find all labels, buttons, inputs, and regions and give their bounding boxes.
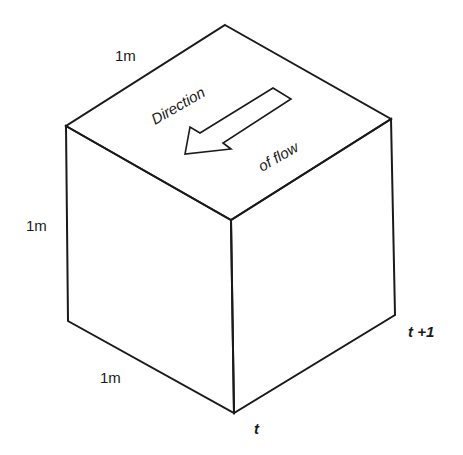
cube-right-face [231, 119, 395, 413]
cube-left-face [66, 126, 234, 413]
time-label-t: t [254, 420, 260, 437]
time-label-t-plus-1: t +1 [408, 323, 434, 340]
bottom-edge-label: 1m [100, 369, 121, 386]
flow-label-of-flow: of flow [255, 138, 302, 175]
left-edge-label: 1m [26, 217, 47, 234]
flow-label-direction: Direction [148, 83, 208, 127]
top-edge-label: 1m [115, 47, 136, 64]
cube-diagram: 1m 1m 1m Direction of flow t t +1 [0, 0, 463, 455]
